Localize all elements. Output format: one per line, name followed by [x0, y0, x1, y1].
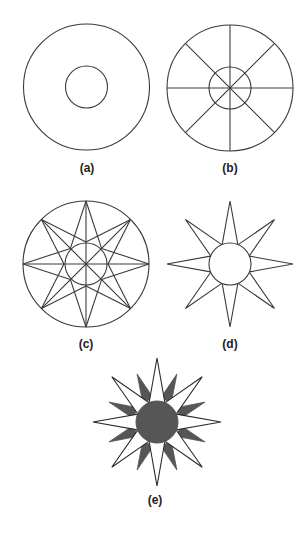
main-white-point	[149, 358, 165, 403]
star-point	[222, 201, 238, 245]
panel-label-c: (c)	[66, 337, 106, 351]
main-white-point	[93, 414, 138, 430]
star-point	[185, 272, 221, 308]
inner-circle	[66, 66, 108, 108]
outer-circle	[24, 24, 150, 150]
main-white-point	[176, 414, 221, 430]
panel-b-radial-divisions	[167, 25, 293, 151]
compass-star-construction-figure: (a) (b) (c) (d) (e)	[0, 0, 308, 533]
panel-label-a: (a)	[67, 161, 107, 175]
center-circle	[209, 243, 251, 285]
center-dark-circle	[136, 401, 178, 443]
panel-label-b: (b)	[210, 161, 250, 175]
figure-drawing	[0, 0, 308, 533]
panel-a-concentric-circles	[24, 24, 150, 150]
star-point	[249, 256, 293, 272]
panel-label-d: (d)	[210, 337, 250, 351]
star-point	[238, 219, 274, 255]
panel-d-eight-point-star	[167, 201, 293, 327]
star-point	[238, 272, 274, 308]
panel-label-e: (e)	[135, 493, 175, 507]
main-white-point	[149, 441, 165, 486]
star-point	[222, 283, 238, 327]
panel-c-star-construction	[23, 201, 149, 327]
panel-e-shaded-compass-star	[93, 358, 221, 486]
star-point	[167, 256, 211, 272]
star-point	[185, 219, 221, 255]
